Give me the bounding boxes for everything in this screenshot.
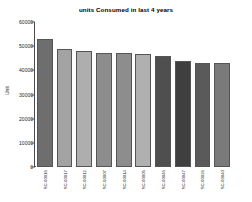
bar[interactable]: [76, 51, 92, 167]
bar-column[interactable]: SC-00012: [74, 22, 94, 167]
bar-column[interactable]: SC-00007: [94, 22, 114, 167]
bar[interactable]: [116, 53, 132, 167]
bar[interactable]: [37, 39, 53, 167]
bar-column[interactable]: SC-00014: [114, 22, 134, 167]
chart-title: units Consumed in last 4 years: [0, 6, 252, 13]
bar-chart: units Consumed in last 4 years Unit 0100…: [0, 0, 252, 202]
bar[interactable]: [195, 63, 211, 167]
bar-column[interactable]: SC-00005: [134, 22, 154, 167]
x-tick-label: SC-00005: [141, 170, 146, 189]
bar-column[interactable]: SC-00040: [212, 22, 232, 167]
bar[interactable]: [57, 49, 73, 167]
x-tick-label: SC-00014: [121, 170, 126, 189]
y-axis-label: Unit: [4, 86, 10, 95]
x-tick-label: SC-00007: [101, 170, 106, 189]
x-tick-label: SC-00017: [62, 170, 67, 189]
bar-series: SC-00016SC-00017SC-00012SC-00007SC-00014…: [35, 22, 232, 167]
x-tick-label: SC-00016: [42, 170, 47, 189]
x-tick-label: SC-00026: [200, 170, 205, 189]
bar-column[interactable]: SC-00017: [55, 22, 75, 167]
bar-column[interactable]: SC-00047: [173, 22, 193, 167]
x-tick-label: SC-00040: [220, 170, 225, 189]
bar[interactable]: [214, 63, 230, 167]
plot-area: 0100002000030000400005000060000 SC-00016…: [35, 22, 232, 167]
bar-column[interactable]: SC-00016: [35, 22, 55, 167]
bar[interactable]: [155, 56, 171, 167]
bar[interactable]: [96, 53, 112, 167]
bar-column[interactable]: SC-00026: [193, 22, 213, 167]
bar-column[interactable]: SC-00046: [153, 22, 173, 167]
x-tick-label: SC-00046: [161, 170, 166, 189]
x-tick-label: SC-00012: [82, 170, 87, 189]
bar[interactable]: [135, 54, 151, 167]
x-tick-label: SC-00047: [180, 170, 185, 189]
bar[interactable]: [175, 61, 191, 167]
